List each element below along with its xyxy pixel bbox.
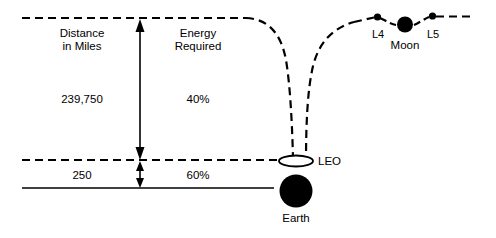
l4-point-marker	[374, 13, 381, 20]
plateau-to-l4-dashed-line	[354, 18, 374, 23]
moon-label: Moon	[391, 39, 420, 52]
leo-orbit-ellipse	[279, 156, 313, 167]
well-wall-right	[306, 22, 354, 164]
l4-label: L4	[372, 28, 384, 41]
distance-arrow-upper-head-bottom	[136, 147, 145, 160]
earth-body	[280, 175, 313, 208]
distance-arrow-lower-head-top	[136, 161, 144, 171]
well-wall-left	[246, 18, 293, 158]
l5-label: L5	[427, 28, 439, 41]
moon-body	[397, 17, 413, 33]
energy-column-header: Energy Required	[175, 27, 222, 53]
moon-well-right	[414, 17, 429, 25]
earth-label: Earth	[282, 212, 310, 225]
distance-arrow-lower-head-bottom	[136, 178, 144, 188]
gravity-well-diagram: Distance in Miles Energy Required 239,75…	[0, 0, 496, 238]
leo-label: LEO	[318, 155, 341, 168]
distance-column-header: Distance in Miles	[60, 27, 105, 53]
distance-value-surface-to-leo: 250	[72, 169, 91, 182]
energy-value-surface-to-leo: 60%	[186, 169, 209, 182]
moon-well-left	[380, 18, 396, 25]
energy-value-earth-to-moon: 40%	[186, 93, 209, 106]
distance-arrow-upper-head-top	[136, 19, 145, 32]
l5-point-marker	[429, 12, 436, 19]
distance-value-earth-to-moon: 239,750	[61, 93, 103, 106]
